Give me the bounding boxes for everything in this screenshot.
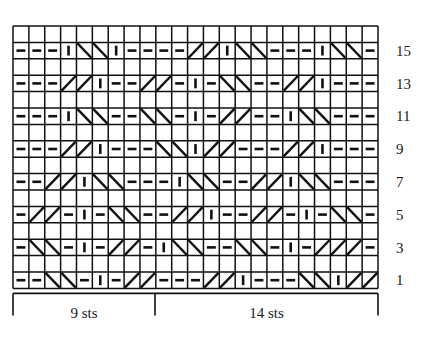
cable-cross-right-symbol <box>77 76 91 91</box>
cable-cross-right-symbol <box>268 174 282 189</box>
row-number-label: 7 <box>396 174 404 190</box>
cable-cross-left-symbol <box>61 273 75 288</box>
cable-cross-left-symbol <box>157 109 171 124</box>
repeat-brackets: 9 sts14 sts <box>13 293 378 321</box>
cable-cross-left-symbol <box>299 174 313 189</box>
cable-cross-left-symbol <box>331 207 345 222</box>
cable-cross-right-symbol <box>46 174 60 189</box>
cable-cross-left-symbol <box>299 109 313 124</box>
cable-cross-left-symbol <box>157 142 171 157</box>
cable-cross-right-symbol <box>220 109 234 124</box>
cable-cross-right-symbol <box>109 240 123 255</box>
cable-cross-left-symbol <box>331 43 345 58</box>
cable-cross-right-symbol <box>347 240 361 255</box>
cable-cross-left-symbol <box>46 240 60 255</box>
cable-cross-right-symbol <box>141 76 155 91</box>
cable-cross-left-symbol <box>204 174 218 189</box>
cable-cross-left-symbol <box>93 43 107 58</box>
cable-cross-right-symbol <box>188 207 202 222</box>
cable-cross-right-symbol <box>30 207 44 222</box>
cable-cross-left-symbol <box>299 273 313 288</box>
cable-cross-left-symbol <box>77 109 91 124</box>
cable-cross-right-symbol <box>236 109 250 124</box>
knitting-chart-container: 151311975319 sts14 sts <box>0 0 434 349</box>
cable-cross-left-symbol <box>315 174 329 189</box>
cable-cross-right-symbol <box>204 142 218 157</box>
cable-cross-left-symbol <box>252 240 266 255</box>
cable-cross-left-symbol <box>236 240 250 255</box>
cable-cross-left-symbol <box>125 207 139 222</box>
cable-cross-right-symbol <box>157 76 171 91</box>
cable-cross-right-symbol <box>204 43 218 58</box>
cable-cross-left-symbol <box>220 76 234 91</box>
cable-cross-right-symbol <box>220 273 234 288</box>
cable-cross-right-symbol <box>77 142 91 157</box>
cable-cross-right-symbol <box>347 273 361 288</box>
cable-cross-left-symbol <box>236 76 250 91</box>
cable-cross-left-symbol <box>347 207 361 222</box>
cable-cross-left-symbol <box>188 174 202 189</box>
cable-cross-left-symbol <box>77 43 91 58</box>
cable-cross-left-symbol <box>109 207 123 222</box>
row-number-label: 11 <box>396 108 410 124</box>
cable-cross-left-symbol <box>236 43 250 58</box>
cable-cross-right-symbol <box>204 273 218 288</box>
cable-cross-right-symbol <box>331 240 345 255</box>
row-number-label: 5 <box>396 207 404 223</box>
bracket-label: 14 sts <box>249 305 284 321</box>
cable-cross-right-symbol <box>125 273 139 288</box>
cable-cross-left-symbol <box>188 240 202 255</box>
cable-cross-right-symbol <box>284 142 298 157</box>
cable-cross-right-symbol <box>173 207 187 222</box>
cable-cross-left-symbol <box>173 142 187 157</box>
row-number-label: 3 <box>396 240 404 256</box>
cable-cross-right-symbol <box>268 207 282 222</box>
row-number-label: 1 <box>396 272 404 288</box>
cable-cross-left-symbol <box>173 240 187 255</box>
knitting-chart-svg: 151311975319 sts14 sts <box>0 0 434 349</box>
cable-cross-left-symbol <box>315 273 329 288</box>
cable-cross-right-symbol <box>284 76 298 91</box>
cable-cross-left-symbol <box>93 174 107 189</box>
cable-cross-right-symbol <box>363 273 377 288</box>
cable-cross-left-symbol <box>347 43 361 58</box>
cable-cross-right-symbol <box>252 174 266 189</box>
cable-cross-right-symbol <box>220 142 234 157</box>
cable-cross-left-symbol <box>93 109 107 124</box>
row-number-label: 13 <box>396 76 411 92</box>
cable-cross-left-symbol <box>46 273 60 288</box>
row-number-label: 15 <box>396 43 411 59</box>
cable-cross-left-symbol <box>109 174 123 189</box>
cable-cross-left-symbol <box>30 240 44 255</box>
cable-cross-left-symbol <box>252 43 266 58</box>
cable-cross-right-symbol <box>61 76 75 91</box>
bracket-label: 9 sts <box>70 305 97 321</box>
cable-cross-right-symbol <box>188 43 202 58</box>
cable-cross-right-symbol <box>252 207 266 222</box>
cable-cross-left-symbol <box>315 109 329 124</box>
cable-cross-left-symbol <box>141 109 155 124</box>
cable-cross-right-symbol <box>315 240 329 255</box>
cable-cross-right-symbol <box>61 142 75 157</box>
row-number-label: 9 <box>396 141 404 157</box>
row-number-labels: 15131197531 <box>396 43 411 289</box>
cable-cross-right-symbol <box>299 76 313 91</box>
cable-cross-right-symbol <box>299 142 313 157</box>
cable-cross-right-symbol <box>125 240 139 255</box>
cable-cross-right-symbol <box>141 273 155 288</box>
cable-cross-right-symbol <box>46 207 60 222</box>
cable-cross-right-symbol <box>61 174 75 189</box>
chart-symbols <box>16 43 377 287</box>
